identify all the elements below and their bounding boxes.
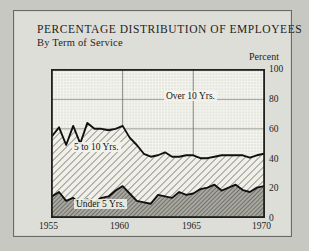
y-tick-20: 20 bbox=[269, 183, 279, 193]
page-title: PERCENTAGE DISTRIBUTION OF EMPLOYEES bbox=[37, 23, 302, 35]
y-axis-title: Percent bbox=[249, 51, 279, 62]
chart-paper-frame: PERCENTAGE DISTRIBUTION OF EMPLOYEES By … bbox=[13, 10, 292, 237]
x-tick-1960: 1960 bbox=[110, 221, 129, 231]
band-label-5-to-10-yrs: 5 to 10 Yrs. bbox=[72, 142, 121, 152]
x-tick-1970: 1970 bbox=[252, 221, 271, 231]
y-tick-40: 40 bbox=[269, 154, 279, 164]
y-tick-60: 60 bbox=[269, 124, 279, 134]
page-subtitle: By Term of Service bbox=[37, 37, 123, 48]
chart-page: PERCENTAGE DISTRIBUTION OF EMPLOYEES By … bbox=[0, 0, 309, 251]
band-label-under-5-yrs: Under 5 Yrs. bbox=[74, 199, 127, 209]
band-label-over-10-yrs: Over 10 Yrs. bbox=[164, 91, 217, 101]
y-tick-100: 100 bbox=[269, 64, 283, 74]
x-tick-1955: 1955 bbox=[39, 221, 58, 231]
y-tick-80: 80 bbox=[269, 94, 279, 104]
x-tick-1965: 1965 bbox=[182, 221, 201, 231]
